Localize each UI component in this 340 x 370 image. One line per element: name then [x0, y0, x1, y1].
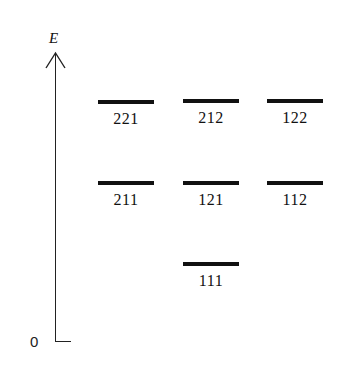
level-bar	[183, 99, 239, 103]
level-label: 112	[267, 191, 323, 209]
energy-level-112: 112	[267, 181, 323, 209]
level-label: 221	[98, 110, 154, 128]
level-bar	[98, 100, 154, 104]
energy-level-122: 122	[267, 99, 323, 127]
energy-level-212: 212	[183, 99, 239, 127]
energy-axis	[55, 54, 56, 342]
energy-level-121: 121	[183, 181, 239, 209]
origin-tick	[55, 341, 71, 342]
level-bar	[267, 99, 323, 103]
level-bar	[183, 262, 239, 266]
level-label: 211	[98, 191, 154, 209]
level-label: 122	[267, 109, 323, 127]
level-label: 111	[183, 272, 239, 290]
energy-axis-label: E	[49, 30, 58, 47]
level-label: 121	[183, 191, 239, 209]
level-label: 212	[183, 109, 239, 127]
level-bar	[98, 181, 154, 185]
energy-level-111: 111	[183, 262, 239, 290]
energy-level-211: 211	[98, 181, 154, 209]
level-bar	[267, 181, 323, 185]
energy-level-221: 221	[98, 100, 154, 128]
level-bar	[183, 181, 239, 185]
origin-label: 0	[30, 333, 38, 350]
